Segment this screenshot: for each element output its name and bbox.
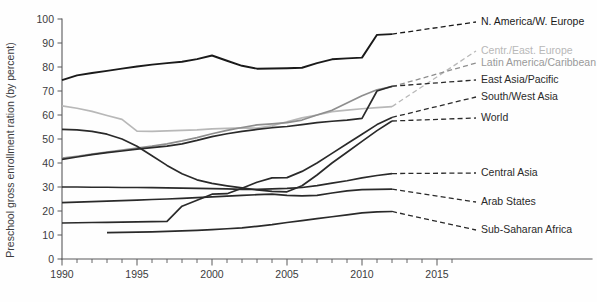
legend-leader-line [392, 173, 476, 174]
series-lines [62, 34, 392, 232]
legend: N. America/W. EuropeCentr./East. EuropeL… [481, 15, 596, 235]
x-tick-label: 2015 [425, 268, 449, 280]
y-tick-label: 100 [36, 13, 54, 25]
legend-leader-line [392, 51, 476, 107]
series-line [62, 34, 392, 80]
legend-leader-line [392, 97, 476, 117]
legend-label[interactable]: Latin America/Caribbean [481, 56, 596, 68]
y-axis-title: Preschool gross enrollment ration (by pe… [4, 42, 16, 257]
series-line [62, 106, 392, 131]
y-tick-label: 10 [42, 229, 54, 241]
legend-label[interactable]: Centr./East. Europe [481, 44, 573, 56]
y-tick-label: 50 [42, 133, 54, 145]
legend-label[interactable]: World [481, 111, 508, 123]
legend-leader-lines [392, 22, 476, 230]
x-tick-label: 2005 [275, 268, 299, 280]
legend-label[interactable]: Arab States [481, 195, 536, 207]
y-tick-label: 80 [42, 61, 54, 73]
line-chart: 0102030405060708090100 19901995200020052… [0, 0, 597, 302]
y-tick-label: 70 [42, 85, 54, 97]
y-tick-label: 20 [42, 205, 54, 217]
y-tick-label: 0 [48, 253, 54, 265]
y-tick-label: 40 [42, 157, 54, 169]
y-tick-label: 90 [42, 37, 54, 49]
legend-label[interactable]: Central Asia [481, 166, 538, 178]
legend-leader-line [392, 211, 476, 230]
chart-container: 0102030405060708090100 19901995200020052… [0, 0, 597, 302]
legend-label[interactable]: Sub-Saharan Africa [481, 223, 572, 235]
y-tick-label: 60 [42, 109, 54, 121]
x-tick-label: 2010 [350, 268, 374, 280]
series-line [62, 174, 392, 190]
legend-leader-line [392, 189, 476, 202]
y-axis: 0102030405060708090100 [36, 13, 62, 265]
legend-leader-line [392, 118, 476, 121]
x-tick-label: 1995 [125, 268, 149, 280]
series-line [62, 189, 392, 202]
x-axis: 199019952000200520102015 [50, 259, 592, 280]
legend-leader-line [392, 22, 476, 34]
x-tick-label: 1990 [50, 268, 74, 280]
series-line [62, 86, 392, 159]
x-tick-label: 2000 [200, 268, 224, 280]
legend-label[interactable]: N. America/W. Europe [481, 15, 584, 27]
y-tick-label: 30 [42, 181, 54, 193]
legend-label[interactable]: South/West Asia [481, 90, 558, 102]
legend-label[interactable]: East Asia/Pacific [481, 73, 559, 85]
